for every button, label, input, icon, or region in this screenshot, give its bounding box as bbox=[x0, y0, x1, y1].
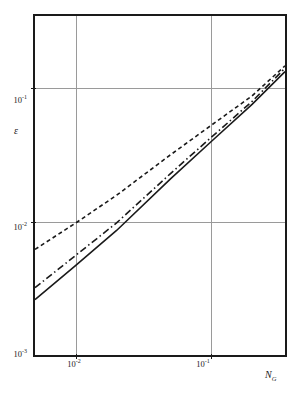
x-axis-title-base: N bbox=[265, 369, 272, 380]
y-tick-label-1e-2: 10-2 bbox=[1, 223, 27, 232]
figure-canvas: 10-1 10-2 10-3 ε 10-2 10-1 NG bbox=[0, 0, 299, 393]
y-tick-label-1e-3: 10-3 bbox=[1, 350, 27, 359]
plot-area bbox=[33, 14, 287, 357]
x-axis-title: NG bbox=[265, 370, 276, 380]
y-tick-label-1e-1: 10-1 bbox=[1, 96, 27, 105]
series-line-upper-curve bbox=[35, 66, 285, 250]
y-axis-title: ε bbox=[14, 126, 18, 136]
x-tick-label-1e-1: 10-1 bbox=[183, 360, 223, 369]
x-axis-title-subscript: G bbox=[272, 375, 277, 382]
series-line-middle-curve bbox=[35, 68, 285, 287]
chart-data-layer bbox=[35, 16, 285, 355]
x-tick-label-1e-2: 10-2 bbox=[54, 360, 94, 369]
